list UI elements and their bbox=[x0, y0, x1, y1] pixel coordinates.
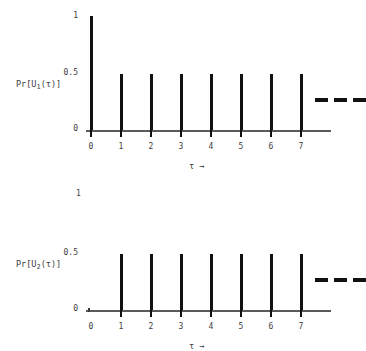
x-tick bbox=[150, 130, 152, 137]
x-tick-label: 6 bbox=[264, 142, 278, 151]
y-tick-label-0: 0 bbox=[60, 304, 78, 313]
x-tick bbox=[270, 310, 272, 317]
x-tick bbox=[210, 310, 212, 317]
x-tick bbox=[120, 130, 122, 137]
impulse-bar bbox=[180, 74, 183, 131]
x-tick-label: 0 bbox=[84, 142, 98, 151]
x-tick-label: 6 bbox=[264, 322, 278, 331]
x-tick bbox=[150, 310, 152, 317]
impulse-bar bbox=[120, 254, 123, 311]
impulse-bar bbox=[300, 254, 303, 311]
impulse-bar bbox=[240, 254, 243, 311]
x-tick-label: 5 bbox=[234, 322, 248, 331]
impulse-bar bbox=[90, 16, 93, 131]
x-tick-label: 1 bbox=[114, 322, 128, 331]
x-tick bbox=[180, 310, 182, 317]
x-tick-label: 1 bbox=[114, 142, 128, 151]
impulse-bar bbox=[150, 254, 153, 311]
x-tick-label: 2 bbox=[144, 142, 158, 151]
x-tick-label: 2 bbox=[144, 322, 158, 331]
impulse-bar bbox=[210, 254, 213, 311]
x-axis-label: τ → bbox=[189, 341, 204, 351]
impulse-bar bbox=[270, 254, 273, 311]
dash-mark bbox=[334, 278, 347, 282]
x-tick bbox=[300, 130, 302, 137]
x-axis-line bbox=[86, 310, 331, 312]
x-tick bbox=[240, 130, 242, 137]
dash-mark bbox=[353, 278, 366, 282]
x-tick-label: 5 bbox=[234, 142, 248, 151]
y-axis-label-tail: (τ)] bbox=[41, 259, 61, 269]
y-axis-label-head: Pr[U bbox=[16, 259, 36, 269]
x-tick-label: 4 bbox=[204, 322, 218, 331]
origin-mark bbox=[88, 308, 90, 312]
chart-panel-1: 1 0.5 0 Pr[U1(τ)] 0 1 2 bbox=[0, 0, 365, 180]
impulse-bar bbox=[300, 74, 303, 131]
continuation-ellipsis bbox=[315, 278, 366, 282]
dash-mark bbox=[353, 98, 366, 102]
continuation-ellipsis bbox=[315, 98, 366, 102]
y-tick-label-1: 1 bbox=[60, 11, 78, 20]
dash-mark bbox=[334, 98, 347, 102]
y-tick-label-1: 1 bbox=[76, 189, 81, 198]
impulse-bar bbox=[210, 74, 213, 131]
y-tick-label-0: 0 bbox=[60, 124, 78, 133]
impulse-bar bbox=[240, 74, 243, 131]
x-tick-label: 7 bbox=[294, 142, 308, 151]
x-tick bbox=[210, 130, 212, 137]
x-axis-line bbox=[86, 130, 331, 132]
y-tick-label-0p5: 0.5 bbox=[53, 248, 78, 257]
impulse-bar bbox=[120, 74, 123, 131]
dash-mark bbox=[315, 278, 328, 282]
x-tick bbox=[240, 310, 242, 317]
x-tick-label: 3 bbox=[174, 322, 188, 331]
x-tick-label: 3 bbox=[174, 142, 188, 151]
x-tick bbox=[180, 130, 182, 137]
impulse-bar bbox=[180, 254, 183, 311]
x-axis-label: τ → bbox=[189, 161, 204, 171]
dash-mark bbox=[315, 98, 328, 102]
impulse-bar bbox=[150, 74, 153, 131]
y-axis-label: Pr[U2(τ)] bbox=[16, 259, 61, 273]
y-axis-label-tail: (τ)] bbox=[41, 79, 61, 89]
x-tick bbox=[300, 310, 302, 317]
x-tick-label: 4 bbox=[204, 142, 218, 151]
x-tick bbox=[270, 130, 272, 137]
impulse-bar bbox=[270, 74, 273, 131]
y-axis-label: Pr[U1(τ)] bbox=[16, 79, 61, 93]
x-tick-label: 0 bbox=[84, 322, 98, 331]
chart-panel-2: 1 0.5 0 Pr[U2(τ)] 0 1 2 bbox=[0, 180, 365, 351]
x-tick bbox=[90, 130, 92, 137]
y-axis-label-head: Pr[U bbox=[16, 79, 36, 89]
x-tick-label: 7 bbox=[294, 322, 308, 331]
y-tick-label-0p5: 0.5 bbox=[53, 68, 78, 77]
x-tick bbox=[120, 310, 122, 317]
